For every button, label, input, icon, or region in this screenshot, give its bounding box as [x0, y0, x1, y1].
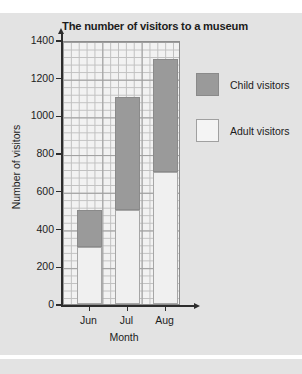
bar-chart-figure: The number of visitors to a museum [0, 13, 302, 355]
y-tick-label-1200: 1200 [31, 72, 54, 84]
y-axis-title: Number of visitors [10, 107, 22, 227]
x-tick-jun [89, 305, 90, 311]
legend-label-adult: Adult visitors [230, 125, 290, 137]
y-axis-arrow-icon [58, 28, 64, 34]
legend-item-child[interactable]: Child visitors [196, 73, 290, 96]
y-tick-label-200: 200 [36, 260, 54, 272]
y-tick-800 [56, 153, 62, 154]
bar-segment-jul-adult[interactable] [115, 210, 140, 304]
plot-area [62, 41, 180, 305]
footer-strip [0, 359, 302, 374]
y-tick-label-400: 400 [36, 223, 54, 235]
y-tick-400 [56, 229, 62, 230]
x-axis-arrow-icon [194, 303, 200, 309]
y-tick-1000 [56, 116, 62, 117]
bar-segment-aug-child[interactable] [153, 59, 178, 172]
y-tick-600 [56, 191, 62, 192]
y-tick-1400 [56, 40, 62, 41]
x-tick-aug [165, 305, 166, 311]
bar-segment-jun-child[interactable] [77, 210, 102, 248]
y-tick-1200 [56, 78, 62, 79]
page-root: The number of visitors to a museum [0, 0, 302, 374]
y-tick-label-800: 800 [36, 147, 54, 159]
child-swatch-icon [196, 73, 219, 96]
y-tick-label-0: 0 [48, 298, 54, 310]
legend-label-child: Child visitors [230, 79, 290, 91]
bar-segment-jun-adult[interactable] [77, 247, 102, 304]
adult-swatch-icon [196, 119, 219, 142]
y-tick-label-1400: 1400 [31, 34, 54, 46]
x-tick-jul [127, 305, 128, 311]
y-tick-label-600: 600 [36, 185, 54, 197]
x-tick-label-aug: Aug [143, 314, 187, 326]
x-axis-line [61, 305, 196, 307]
legend-item-adult[interactable]: Adult visitors [196, 119, 290, 142]
y-tick-label-1000: 1000 [31, 109, 54, 121]
x-axis-title: Month [84, 331, 164, 343]
bar-segment-jul-child[interactable] [115, 97, 140, 210]
y-tick-0 [56, 304, 62, 305]
chart-title: The number of visitors to a museum [62, 20, 294, 32]
y-tick-200 [56, 267, 62, 268]
bar-segment-aug-adult[interactable] [153, 172, 178, 304]
